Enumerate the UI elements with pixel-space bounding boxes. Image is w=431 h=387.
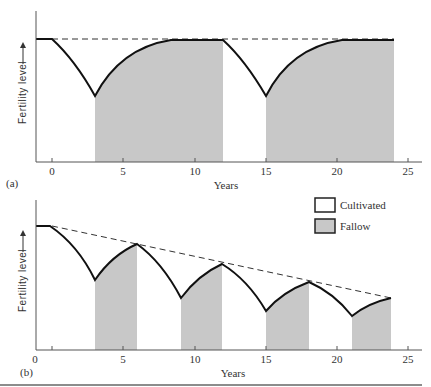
tick-label-b-15: 15 xyxy=(261,353,273,365)
fallow-region-b1 xyxy=(95,244,137,350)
tick-label-b-0: 0 xyxy=(32,353,38,365)
x-axis-title-a: Years xyxy=(214,179,239,191)
y-axis-title-b: Fertility level xyxy=(17,230,28,312)
legend-label-cultivated: Cultivated xyxy=(340,199,386,211)
tick-label-a-20: 20 xyxy=(332,165,344,177)
svg-text:Fertility level: Fertility level xyxy=(17,61,28,124)
tick-label-a-5: 5 xyxy=(120,165,126,177)
legend-swatch-cultivated xyxy=(315,198,335,212)
legend-swatch-fallow xyxy=(315,219,335,233)
panel-b: 0 5 10 15 20 25 Years (b) Fertility leve… xyxy=(17,198,422,379)
tick-label-a-15: 15 xyxy=(261,165,273,177)
x-axis-title-b: Years xyxy=(221,367,246,379)
panel-label-b: (b) xyxy=(20,366,33,379)
svg-text:Fertility level: Fertility level xyxy=(17,249,28,312)
tick-label-b-5: 5 xyxy=(120,353,126,365)
tick-label-a-10: 10 xyxy=(190,165,202,177)
panel-label-a: (a) xyxy=(6,177,19,190)
legend-label-fallow: Fallow xyxy=(340,220,371,232)
arrow-up-icon xyxy=(20,42,26,48)
y-axis-title-a: Fertility level xyxy=(17,42,28,124)
arrow-up-icon xyxy=(20,230,26,236)
legend: Cultivated Fallow xyxy=(315,198,386,233)
tick-label-b-20: 20 xyxy=(332,353,344,365)
tick-label-b-25: 25 xyxy=(403,353,415,365)
panel-a: 0 5 10 15 20 25 Years (a) Fertility leve… xyxy=(6,11,422,191)
fallow-region-b4 xyxy=(352,298,391,350)
fallow-region-a2 xyxy=(266,40,394,162)
fallow-region-a1 xyxy=(95,40,223,162)
tick-label-a-0: 0 xyxy=(49,165,55,177)
figure: 0 5 10 15 20 25 Years (a) Fertility leve… xyxy=(0,0,431,387)
tick-label-a-25: 25 xyxy=(403,165,415,177)
tick-label-b-10: 10 xyxy=(190,353,202,365)
